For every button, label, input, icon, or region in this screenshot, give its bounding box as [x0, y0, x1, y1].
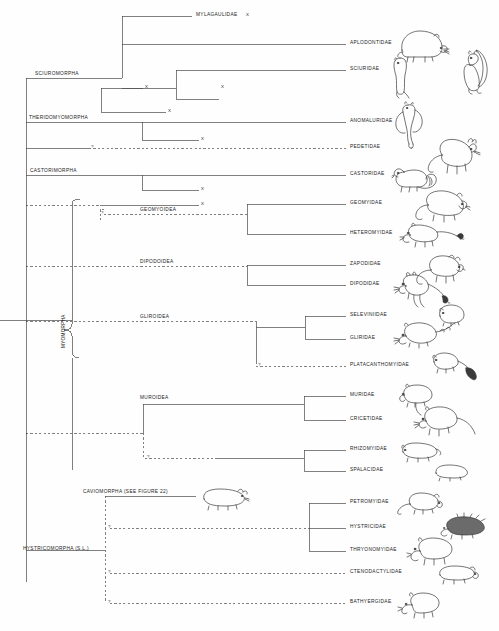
tip-label-mylagaulidae: MYLAGAULIDAE	[196, 13, 238, 18]
tip-label-aplodontidae: APLODONTIDAE	[350, 41, 392, 46]
clade-label-geomyoidea: GEOMYOIDEA	[140, 208, 176, 213]
clade-label-muroidea: MUROIDEA	[140, 396, 169, 401]
tip-label-ctenodactylidae: CTENODACTYLIDAE	[350, 570, 402, 575]
clade-label-myomorpha: MYOMORPHA	[62, 314, 67, 348]
clade-label-gliroidea: GLIROIDEA	[140, 315, 169, 320]
cricetus-illustration	[414, 405, 476, 443]
uncertainty-marker-bathyergidae: ?	[108, 600, 111, 604]
clade-label-theridomyomorpha: THERIDOMYOMORPHA	[29, 116, 88, 121]
tip-label-geomyidae: GEOMYIDAE	[350, 201, 382, 206]
ctenodactylus-illustration	[434, 563, 480, 587]
figure-canvas: MYLAGAULIDAE X APLODONTIDAE SCIURIDAE AN…	[0, 0, 499, 631]
tip-label-zapodidae: ZAPODIDAE	[350, 262, 381, 267]
uncertainty-marker-platacanthomyidae: ?	[258, 363, 261, 367]
cross-reference-caviomorpha: CAVIOMORPHA (SEE FIGURE 22)	[83, 490, 168, 495]
extinct-marker-mylagaulidae: X	[246, 13, 249, 17]
extinct-marker-castorimorpha: X	[201, 187, 204, 191]
tip-label-rhizomyidae: RHIZOMYIDAE	[350, 447, 387, 452]
tip-label-hystricidae: HYSTRICIDAE	[350, 525, 386, 530]
tip-label-seleviniidae: SELEVINIIDAE	[350, 313, 387, 318]
rhizomys-illustration	[398, 440, 444, 464]
clade-label-castorimorpha: CASTORIMORPHA	[30, 169, 77, 174]
extinct-marker-geomyoidea: X	[201, 202, 204, 206]
extinct-marker-sciuro-a: X	[221, 85, 224, 89]
tip-label-anomaluridae: ANOMALURIDAE	[350, 119, 393, 124]
uncertainty-marker-ctenodactylidae: ?	[108, 570, 111, 574]
glis-illustration	[392, 320, 456, 352]
tip-label-spalacidae: SPALACIDAE	[350, 468, 383, 473]
clade-label-dipodoidea: DIPODOIDEA	[140, 260, 174, 265]
heteromys-illustration	[400, 221, 466, 251]
tip-label-thryonomyidae: THRYONOMYIDAE	[350, 548, 397, 553]
tip-label-pedetidae: PEDETIDAE	[350, 145, 380, 150]
tip-label-platacanthomyidae: PLATACANTHOMYIDAE	[350, 363, 409, 368]
bathyergus-illustration	[396, 590, 446, 620]
clade-label-sciuromorpha: SCIUROMORPHA	[35, 72, 79, 77]
ground-squirrel-illustration	[387, 52, 417, 100]
tip-label-petromyidae: PETROMYIDAE	[350, 500, 389, 505]
extinct-marker-theridomyomorpha: X	[201, 137, 204, 141]
uncertainty-marker-geomyoidea: ?	[101, 211, 104, 215]
tip-label-muridae: MURIDAE	[350, 393, 375, 398]
tip-label-sciuridae: SCIURIDAE	[350, 67, 379, 72]
tip-label-castoridae: CASTORIDAE	[350, 172, 385, 177]
tip-label-dipodidae: DIPODIDAE	[350, 282, 380, 287]
petromus-illustration	[396, 490, 444, 516]
squirrel-illustration	[444, 47, 496, 97]
tip-label-bathyergidae: BATHYERGIDAE	[350, 600, 391, 605]
tip-label-heteromyidae: HETEROMYIDAE	[350, 231, 393, 236]
uncertainty-marker-rhizomyidae: ?	[147, 455, 150, 459]
extinct-marker-sciuro-b: X	[145, 85, 148, 89]
clade-label-hystricomorpha: HYSTRICOMORPHA (S.L.)	[23, 547, 89, 552]
tip-label-gliridae: GLIRIDAE	[350, 336, 375, 341]
cavia-illustration	[196, 486, 250, 512]
extinct-marker-sciuro-c: X	[168, 109, 171, 113]
tip-label-cricetidae: CRICETIDAE	[350, 417, 383, 422]
uncertainty-marker-petromyidae: ?	[108, 525, 111, 529]
uncertainty-marker-pedetidae: ?	[91, 145, 94, 149]
platacanthomys-illustration	[428, 350, 480, 384]
spalax-illustration	[432, 462, 472, 484]
